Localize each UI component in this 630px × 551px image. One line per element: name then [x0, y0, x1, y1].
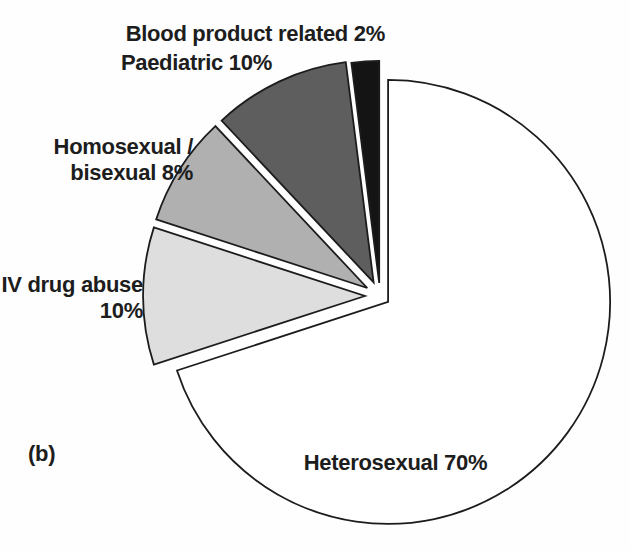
label-iv-drug-abuse: IV drug abuse 10% — [1, 272, 143, 324]
figure-panel: Blood product related 2% Paediatric 10% … — [0, 0, 630, 551]
label-iv-line1: IV drug abuse — [1, 272, 143, 298]
label-homosexual-line1: Homosexual / — [54, 134, 193, 160]
label-iv-line2: 10% — [1, 298, 143, 324]
label-heterosexual: Heterosexual 70% — [283, 450, 508, 476]
label-homosexual-bisexual: Homosexual / bisexual 8% — [54, 134, 193, 186]
label-paediatric: Paediatric 10% — [121, 50, 272, 76]
figure-label: (b) — [28, 441, 55, 467]
label-homosexual-line2: bisexual 8% — [54, 160, 193, 186]
label-blood-product: Blood product related 2% — [126, 21, 385, 47]
